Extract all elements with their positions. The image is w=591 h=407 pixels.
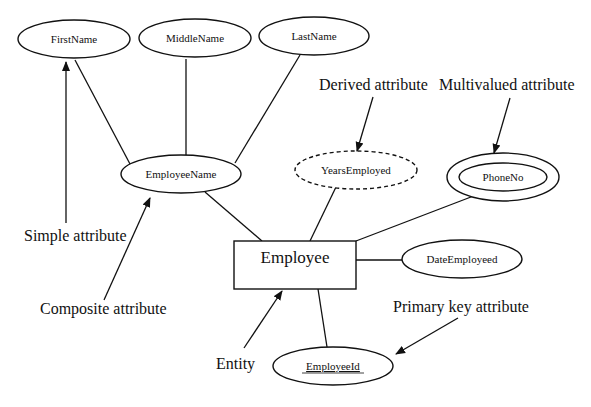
attr-label: EmployeeName xyxy=(146,168,217,180)
er-diagram: FirstName MiddleName LastName EmployeeNa… xyxy=(0,0,591,407)
edge-firstname-employeename xyxy=(75,60,130,164)
edge-employee-employeeid xyxy=(318,289,327,347)
edge-lastname-employeename xyxy=(235,55,300,163)
attr-label: LastName xyxy=(291,30,336,42)
edge-employeename-employee xyxy=(205,192,262,241)
attr-label: MiddleName xyxy=(166,32,224,44)
label-composite-attribute: Composite attribute xyxy=(40,300,167,318)
label-simple-attribute: Simple attribute xyxy=(24,227,127,245)
arrow-primary-key xyxy=(396,318,458,354)
attr-dateemployed: DateEmployeed xyxy=(402,240,522,278)
attr-phoneno-multivalued: PhoneNo xyxy=(447,153,559,201)
attr-firstname: FirstName xyxy=(18,20,130,58)
label-derived-attribute: Derived attribute xyxy=(319,76,428,93)
attr-label: DateEmployeed xyxy=(427,253,498,265)
label-primary-key-attribute: Primary key attribute xyxy=(393,298,529,316)
attr-yearsemployed-derived: YearsEmployed xyxy=(295,151,417,189)
label-entity: Entity xyxy=(216,355,255,373)
arrow-derived xyxy=(357,97,373,151)
arrow-composite xyxy=(104,198,150,300)
attr-middlename: MiddleName xyxy=(139,19,251,57)
entity-employee: Employee xyxy=(234,241,356,289)
attr-label: PhoneNo xyxy=(483,171,524,183)
edge-yearsemployed-employee xyxy=(310,187,336,241)
attr-employeeid-primary-key: EmployeeId xyxy=(273,347,393,385)
entity-label: Employee xyxy=(261,248,330,267)
label-multivalued-attribute: Multivalued attribute xyxy=(439,76,575,93)
attr-label: YearsEmployed xyxy=(321,164,391,176)
edge-phoneno-employee xyxy=(356,192,484,241)
attr-label: FirstName xyxy=(51,33,98,45)
attr-employeename-composite: EmployeeName xyxy=(121,155,241,193)
arrow-multivalued xyxy=(494,98,510,153)
attr-lastname: LastName xyxy=(259,17,369,55)
attr-label-underlined: EmployeeId xyxy=(306,360,360,372)
arrow-entity xyxy=(244,291,282,348)
